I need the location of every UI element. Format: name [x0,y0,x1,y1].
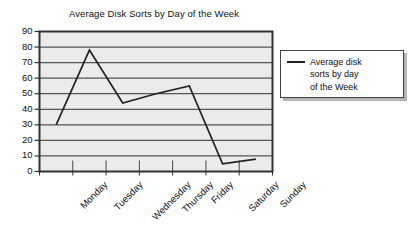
chart-container: Average Disk Sorts by Day of the Week 01… [0,0,419,239]
y-axis-tick-label: 10 [11,149,33,160]
legend-label: Average disk sorts by day of the Week [310,56,362,93]
y-axis-tick-label: 60 [11,72,33,83]
legend-line-icon [287,56,305,67]
plot-area-background [40,32,273,172]
y-axis-tick-label: 70 [11,56,33,67]
chart-legend: Average disk sorts by day of the Week [280,50,404,98]
y-axis-tick-label: 0 [11,165,33,176]
y-axis-tick-label: 20 [11,134,33,145]
y-axis-tick-label: 50 [11,87,33,98]
legend-entry: Average disk sorts by day of the Week [287,56,399,93]
line-chart-plot [0,0,419,239]
y-axis-tick-label: 80 [11,41,33,52]
y-axis-tick-label: 90 [11,25,33,36]
y-axis-tick-label: 30 [11,118,33,129]
y-axis-tick-label: 40 [11,103,33,114]
